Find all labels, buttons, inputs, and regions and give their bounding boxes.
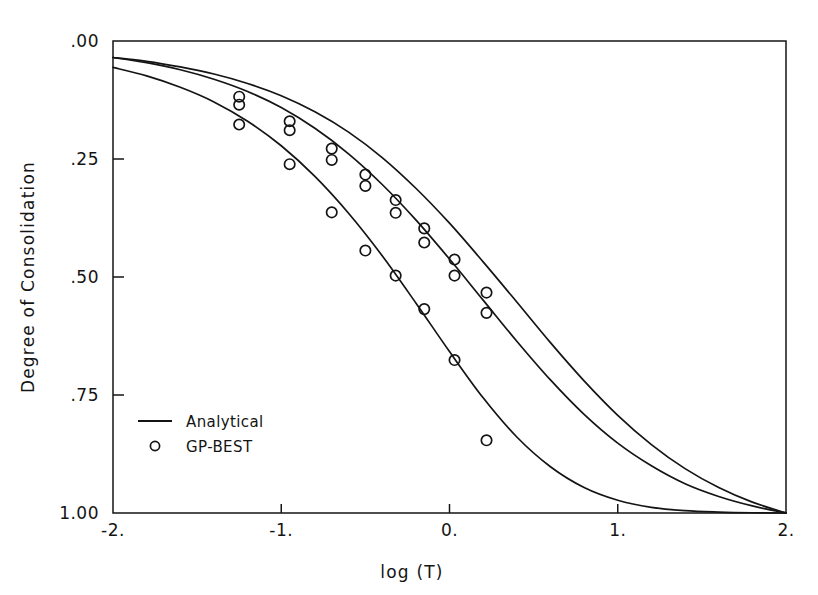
x-tick-label: 0. [441,520,458,540]
legend-label-analytical: Analytical [186,413,264,431]
legend-label-gpbest: GP-BEST [186,438,253,456]
x-tick-label: -2. [101,520,125,540]
y-tick-label: .50 [70,267,99,287]
x-tick-label: -1. [269,520,293,540]
y-tick-label: .75 [70,385,99,405]
x-axis-title: log (T) [380,562,443,582]
chart-figure: -2.-1.0.1.2. .00.25.50.751.00 Analytical… [0,0,818,595]
x-tick-label: 2. [777,520,794,540]
consolidation-chart: -2.-1.0.1.2. .00.25.50.751.00 Analytical… [0,0,818,595]
y-tick-label: .00 [70,31,99,51]
chart-background [0,0,818,595]
y-tick-label: 1.00 [59,503,99,523]
x-tick-label: 1. [609,520,626,540]
y-axis-title: Degree of Consolidation [18,161,38,393]
y-tick-label: .25 [70,149,99,169]
